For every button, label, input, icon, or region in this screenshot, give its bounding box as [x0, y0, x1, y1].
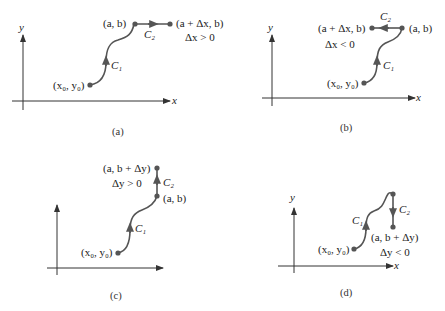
start-label: (x₀, y₀) [53, 79, 85, 92]
x-axis-label: x [415, 91, 421, 103]
x-axis-label: x [393, 259, 399, 271]
end-point [167, 21, 172, 26]
start-label: (x₀, y₀) [318, 243, 350, 256]
corner-point [154, 193, 159, 198]
start-point [115, 250, 120, 255]
condition-label: Δx < 0 [325, 38, 355, 50]
c2-label: C₂ [144, 28, 155, 40]
corner-label: (a, b) [163, 192, 187, 205]
c1-label: C₁ [352, 214, 363, 226]
caption-d: (d) [340, 287, 353, 299]
condition-label: Δy < 0 [380, 246, 410, 258]
start-point [361, 80, 366, 85]
start-label: (x₀, y₀) [327, 77, 359, 90]
end-label: (a + Δx, b) [176, 17, 224, 30]
start-point [87, 82, 92, 87]
c1-label: C₁ [111, 59, 122, 71]
corner-point [132, 21, 137, 26]
curve-c1 [90, 24, 134, 85]
caption-a: (a) [112, 126, 124, 138]
y-axis-label: y [18, 21, 24, 33]
x-axis-label: x [171, 94, 177, 106]
panel-d: x y (x₀, y₀) (a, b + Δy) Δy < 0 C₁ C₂ (d… [278, 191, 419, 299]
curve-c1 [364, 28, 402, 83]
c2-label: C₂ [380, 10, 391, 22]
c1-label: C₁ [135, 222, 146, 234]
end-label: (a, b + Δy) [371, 231, 419, 244]
end-label: (a + Δx, b) [318, 22, 366, 35]
end-point [390, 224, 395, 229]
panel-c: (x₀, y₀) (a, b) (a, b + Δy) Δy > 0 C₁ C₂… [47, 162, 187, 302]
c2-label: C₂ [163, 176, 174, 188]
corner-label: (a, b) [409, 22, 433, 35]
y-axis-label: y [289, 191, 295, 203]
c2-label: C₂ [399, 203, 410, 215]
condition-label: Δy > 0 [112, 177, 142, 189]
panel-a: x y (x₀, y₀) (a, b) (a + Δx, b) Δx > 0 C… [12, 17, 224, 138]
corner-label: (a, b) [103, 17, 127, 30]
start-point [351, 246, 356, 251]
panel-b: x y (x₀, y₀) (a, b) (a + Δx, b) Δx < 0 C… [262, 10, 433, 134]
end-point [154, 165, 159, 170]
path-diagrams: x y (x₀, y₀) (a, b) (a + Δx, b) Δx > 0 C… [0, 0, 445, 311]
start-label: (x₀, y₀) [81, 246, 113, 259]
caption-b: (b) [340, 122, 353, 134]
corner-point [399, 25, 404, 30]
corner-point [390, 191, 395, 196]
c1-label: C₁ [383, 59, 394, 71]
y-axis-label: y [267, 21, 273, 33]
end-label: (a, b + Δy) [103, 162, 151, 175]
condition-label: Δx > 0 [185, 31, 215, 43]
end-point [369, 25, 374, 30]
caption-c: (c) [110, 290, 122, 302]
